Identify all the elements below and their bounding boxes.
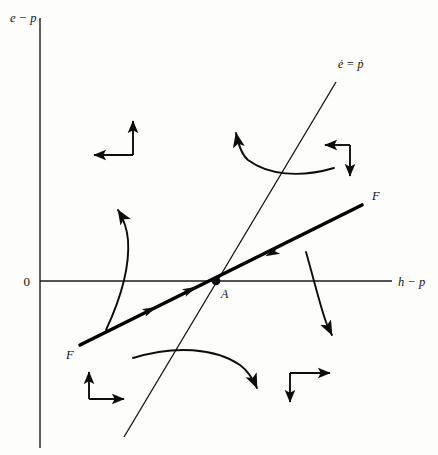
arrow-pair-top-left xyxy=(94,121,133,155)
equilibrium-point-label: A xyxy=(220,287,229,301)
trajectory-arc-right xyxy=(306,252,332,335)
trajectory-arc-lower xyxy=(133,350,257,388)
phase-diagram-figure: e − p h − p 0 A ė = ṗ F F xyxy=(0,0,438,455)
axes-group xyxy=(40,18,392,448)
arrow-pair-bottom-left xyxy=(89,372,124,399)
ff-label-right: F xyxy=(371,189,380,203)
ff-label-left: F xyxy=(65,348,74,362)
ee-dot-schedule-line xyxy=(124,82,336,437)
y-axis-label: e − p xyxy=(10,11,36,25)
arrow-pair-bottom-right xyxy=(290,373,330,402)
phase-diagram-canvas: e − p h − p 0 A ė = ṗ F F xyxy=(0,0,438,455)
trajectory-arcs-group xyxy=(106,133,334,388)
x-axis-label: h − p xyxy=(398,275,425,289)
ff-saddle-path-group xyxy=(80,205,362,345)
trajectory-arc-left xyxy=(106,210,128,330)
arrow-pair-top-right xyxy=(325,145,350,176)
ee-dot-schedule-label: ė = ṗ xyxy=(338,57,363,71)
origin-label: 0 xyxy=(24,274,31,289)
equilibrium-point-marker xyxy=(212,277,221,286)
ff-saddle-path-line xyxy=(80,205,362,345)
